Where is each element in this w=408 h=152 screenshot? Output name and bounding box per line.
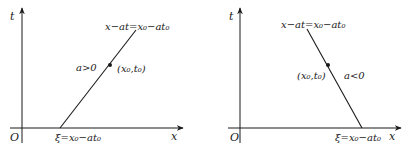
condition-label: a<0: [344, 70, 365, 81]
point-label: (x₀,t₀): [297, 70, 326, 81]
line-equation-label: x−at=x₀−at₀: [105, 21, 169, 32]
point-marker: [326, 63, 330, 67]
x-axis-label: x: [171, 130, 178, 143]
x-axis-label: x: [389, 130, 396, 143]
t-axis-label: t: [229, 10, 234, 23]
characteristic-line: [60, 30, 136, 128]
condition-label: a>0: [76, 62, 97, 73]
characteristic-lines-diagram: t x O x−at=x₀−at₀ (x₀,t₀) a>0 ξ=x₀−at₀ t…: [0, 0, 408, 152]
t-axis-label: t: [10, 10, 15, 23]
panel-left: t x O x−at=x₀−at₀ (x₀,t₀) a>0 ξ=x₀−at₀: [10, 8, 183, 144]
intercept-label: ξ=x₀−at₀: [55, 132, 101, 143]
panel-right: t x O x−at=x₀−at₀ (x₀,t₀) a<0 ξ=x₀−at₀: [228, 8, 401, 144]
line-equation-label: x−at=x₀−at₀: [281, 19, 345, 30]
origin-label: O: [230, 131, 239, 144]
point-marker: [108, 63, 112, 67]
intercept-label: ξ=x₀−at₀: [335, 132, 381, 143]
point-label: (x₀,t₀): [117, 63, 146, 74]
origin-label: O: [10, 131, 19, 144]
